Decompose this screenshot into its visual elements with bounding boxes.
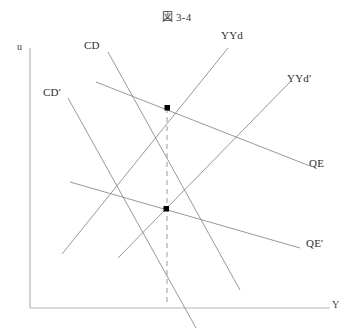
curve-label-yyd: YYd — [221, 29, 243, 41]
curve-label-cd: CD — [84, 39, 100, 51]
plot-area — [0, 0, 353, 334]
curve-yyd-prime — [118, 82, 290, 258]
y-axis-label: u — [17, 41, 22, 52]
curve-qe-prime — [70, 182, 300, 248]
curve-cd — [108, 52, 240, 290]
figure-container: 図 3-4 u Y CD CD' YYd YYd' QE QE' — [0, 0, 353, 334]
curve-label-qe: QE — [309, 157, 324, 169]
curve-label-yyd-prime: YYd' — [287, 72, 311, 84]
curve-label-qe-prime: QE' — [306, 237, 323, 249]
equilibrium-point-upper — [165, 105, 171, 111]
equilibrium-point-lower — [164, 206, 170, 212]
x-axis-label: Y — [332, 299, 339, 310]
curve-label-cd-prime: CD' — [43, 86, 61, 98]
